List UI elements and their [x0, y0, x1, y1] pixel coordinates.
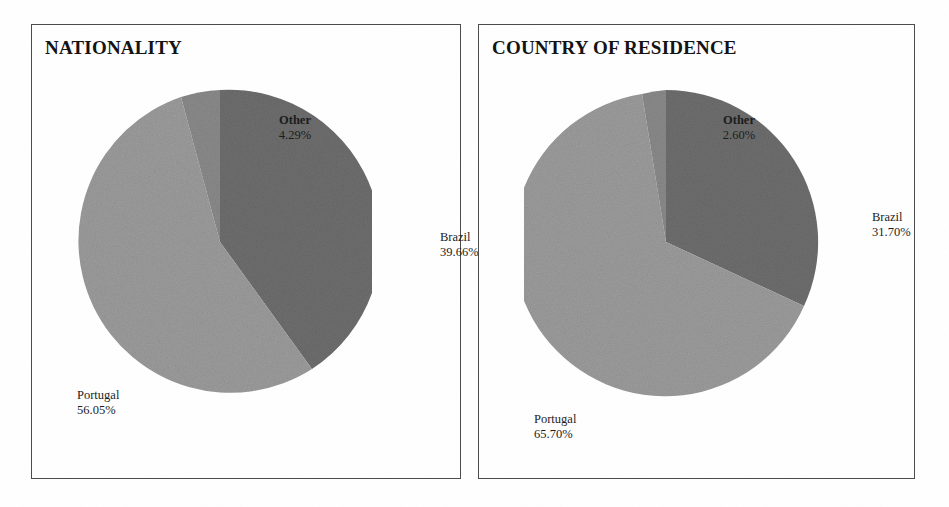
pie-label-value: 4.29% — [240, 128, 350, 143]
pie-label-value: 56.05% — [77, 403, 187, 418]
panel-title-nationality: NATIONALITY — [45, 37, 182, 59]
panel-nationality: NATIONALITY — [31, 24, 461, 479]
pie-label-value: 2.60% — [684, 128, 794, 143]
panel-title-country-of-residence: COUNTRY OF RESIDENCE — [492, 37, 737, 59]
pie-label-nationality-other: Other 4.29% — [240, 113, 350, 143]
pie-label-residence-brazil: Brazil 31.70% — [872, 210, 949, 240]
figure-two-pie-charts: NATIONALITY — [0, 0, 949, 507]
pie-label-name: Portugal — [534, 412, 644, 427]
pie-label-nationality-portugal: Portugal 56.05% — [77, 388, 187, 418]
pie-label-value: 65.70% — [534, 427, 644, 442]
pie-label-name: Portugal — [77, 388, 187, 403]
panel-country-of-residence: COUNTRY OF RESIDENCE — [478, 24, 915, 479]
pie-label-name: Other — [684, 113, 794, 128]
pie-label-name: Brazil — [872, 210, 949, 225]
pie-label-value: 31.70% — [872, 225, 949, 240]
pie-label-residence-other: Other 2.60% — [684, 113, 794, 143]
pie-chart-country-of-residence: Other 2.60% Brazil 31.70% Portugal 65.70… — [524, 70, 824, 415]
pie-chart-nationality: Other 4.29% Brazil 39.66% Portugal 56.05… — [72, 70, 372, 415]
pie-label-name: Other — [240, 113, 350, 128]
pie-label-residence-portugal: Portugal 65.70% — [534, 412, 644, 442]
